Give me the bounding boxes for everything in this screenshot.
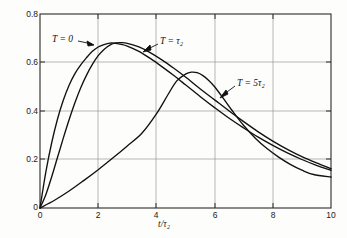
x-tick-6: 6 — [203, 210, 227, 220]
x-axis-title: t/τ₂ — [158, 219, 170, 229]
x-tick-0: 0 — [28, 210, 52, 220]
curve-label-t-equals-5tau2: T = 5τ₂ — [237, 78, 265, 88]
x-tick-2: 2 — [86, 210, 110, 220]
curve-label-t-equals-0: T = 0 — [52, 34, 73, 44]
x-tick-8: 8 — [261, 210, 285, 220]
x-tick-10: 10 — [319, 210, 343, 220]
chart-page: 0.8 0.6 0.4 0.2 0 0 2 4 6 8 10 Input vol… — [0, 0, 347, 238]
curve-label-t-equals-tau2: T = τ₂ — [160, 36, 183, 46]
